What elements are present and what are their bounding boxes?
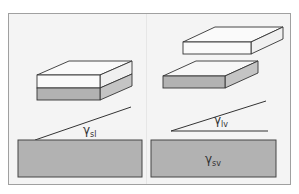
left-substrate bbox=[18, 140, 142, 177]
right-gray-slab-front bbox=[163, 76, 225, 88]
left-gray-slab-front bbox=[37, 88, 100, 100]
right-white-slab-front bbox=[183, 42, 251, 54]
left-white-slab-front bbox=[37, 75, 100, 88]
wetting-diagram: γsl γlv γsv bbox=[0, 0, 299, 194]
